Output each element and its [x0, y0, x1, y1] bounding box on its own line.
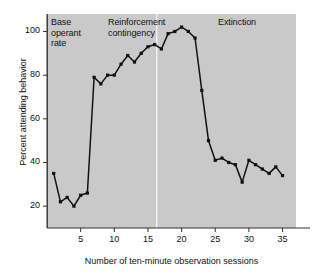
- x-tick-label: 5: [71, 234, 91, 244]
- y-tick-label: 20: [12, 200, 40, 210]
- annotation-extinction: Extinction: [218, 17, 256, 28]
- x-tick-label: 35: [273, 234, 293, 244]
- chart-figure: Base operant rate Reinforcement continge…: [0, 0, 313, 276]
- x-tick-label: 20: [172, 234, 192, 244]
- x-tick-label: 25: [205, 234, 225, 244]
- annotation-reinforcement-contingency: Reinforcement contingency: [108, 17, 165, 38]
- x-tick-label: 15: [138, 234, 158, 244]
- annotation-base-operant-rate: Base operant rate: [51, 17, 81, 49]
- x-tick-label: 30: [239, 234, 259, 244]
- axis-lines: [43, 14, 310, 232]
- x-axis-title: Number of ten-minute observation session…: [47, 256, 296, 266]
- x-tick-label: 10: [104, 234, 124, 244]
- data-series-attending-behavior: [52, 14, 284, 228]
- y-axis-title: Percent attending behavior: [18, 37, 28, 187]
- y-tick-label: 100: [12, 25, 40, 35]
